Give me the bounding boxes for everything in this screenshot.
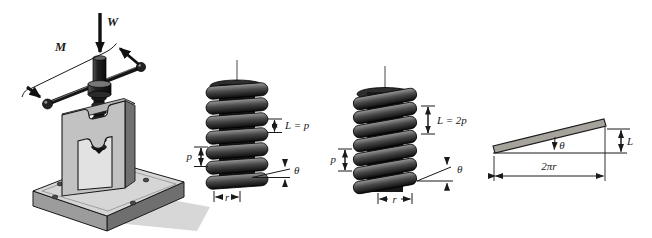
screw-jack-illustration: W M: [22, 13, 210, 231]
base-bolt: [52, 195, 58, 199]
load-label: W: [107, 15, 119, 29]
incline-base-label: 2πr: [541, 160, 557, 172]
incline-angle-label: θ: [559, 139, 565, 151]
lead-label: L = p: [284, 119, 310, 131]
radius-label: r: [392, 194, 397, 205]
incline-height-label: L: [626, 135, 633, 147]
figure-canvas: W M L = p: [0, 0, 652, 238]
single-thread-screw-figure: L = p p θ r: [186, 60, 310, 203]
lead-dimension: [421, 106, 435, 134]
pitch-label: p: [186, 150, 193, 162]
lead-dimension: [267, 119, 282, 133]
base-bolt: [143, 178, 149, 182]
moment-label: M: [54, 40, 67, 54]
helix-angle-label: θ: [294, 164, 300, 176]
helix-angle-label: θ: [457, 163, 463, 175]
handle-ball-left: [43, 99, 53, 109]
base-bolt: [130, 201, 136, 205]
pitch-dimension: [338, 149, 352, 171]
double-thread-ribs: [352, 87, 417, 194]
helix-angle-marks: [417, 158, 453, 189]
radius-label: r: [225, 192, 230, 203]
handle-force-arrow-left: [27, 87, 40, 97]
jack-screw-head: [88, 56, 111, 98]
handle-force-arrow-right: [120, 49, 139, 65]
double-thread-screw-figure: L = 2p p θ r: [330, 66, 468, 205]
lead-label: L = 2p: [436, 114, 467, 126]
incline-angle-arrow: [554, 137, 555, 150]
textbook-figure-screw-mechanics: W M L = p: [0, 0, 652, 238]
unwrapped-thread-incline-figure: θ L 2πr: [493, 119, 633, 181]
incline-bar: [493, 119, 606, 153]
pitch-label: p: [330, 153, 337, 165]
pitch-dimension: [194, 147, 208, 167]
